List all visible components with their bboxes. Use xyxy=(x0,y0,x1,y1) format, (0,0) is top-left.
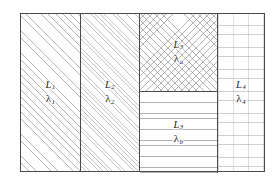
label-layer-3-lower-lambda: λb xyxy=(174,132,184,146)
label-layer-4-lambda: λ4 xyxy=(236,92,246,106)
label-layer-3-lower-symbol: L3 xyxy=(174,119,184,132)
region-layer-3-lower: L3 λb xyxy=(140,92,218,173)
label-layer-3-upper: L3 λa xyxy=(174,39,184,67)
region-layer-3-upper: L3 λa xyxy=(140,14,218,92)
label-layer-3-upper-symbol: L3 xyxy=(174,39,184,52)
label-layer-3-lower: L3 λb xyxy=(174,119,184,147)
label-layer-2-symbol: L2 xyxy=(105,79,115,92)
label-layer-1-symbol: L1 xyxy=(46,79,56,92)
label-layer-1-lambda: λ1 xyxy=(46,92,56,106)
label-layer-4: L4 λ4 xyxy=(236,79,246,107)
label-layer-3-upper-lambda: λa xyxy=(174,52,184,66)
region-layer-1: L1 λ1 xyxy=(21,14,81,171)
slab-diagram: L1 λ1 L2 λ2 L3 λa L3 λb xyxy=(0,0,277,185)
region-layer-4: L4 λ4 xyxy=(218,14,264,171)
region-layer-2: L2 λ2 xyxy=(81,14,140,171)
label-layer-2-lambda: λ2 xyxy=(105,92,115,106)
label-layer-1: L1 λ1 xyxy=(46,79,56,107)
label-layer-2: L2 λ2 xyxy=(105,79,115,107)
slab-outer-frame: L1 λ1 L2 λ2 L3 λa L3 λb xyxy=(20,13,265,172)
label-layer-4-symbol: L4 xyxy=(236,79,246,92)
